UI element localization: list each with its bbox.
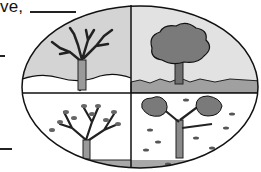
four-seasons-illustration	[0, 0, 261, 172]
quadrant-summer	[131, 4, 261, 93]
quadrant-autumn	[131, 93, 261, 172]
quadrant-spring	[20, 93, 131, 172]
